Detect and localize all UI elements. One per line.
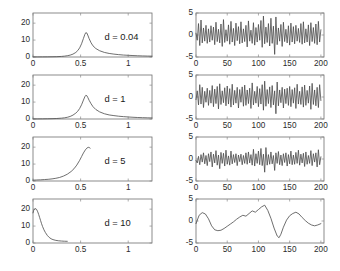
chart-panel-right-signal-2: 050100150200-505: [170, 66, 334, 135]
y-tick-label: 5: [188, 8, 193, 17]
y-tick-label: 0: [25, 176, 30, 185]
y-tick-label: 0: [188, 30, 193, 39]
y-tick-label: 5: [188, 132, 193, 141]
chart-panel-left-d-5: 00.5101020d = 5: [7, 128, 162, 197]
figure-panel-grid: 00.5101020d = 0.0400.5101020d = 100.5101…: [0, 0, 340, 271]
y-tick-label: 10: [21, 159, 31, 168]
y-tick-label: 0: [188, 154, 193, 163]
y-tick-label: 20: [21, 18, 31, 27]
x-tick-label: 50: [223, 245, 233, 254]
panel-annotation: d = 10: [104, 217, 130, 228]
plot-frame: [33, 199, 152, 243]
y-tick-label: 0: [25, 114, 30, 123]
data-curve: [196, 205, 321, 238]
x-tick-label: 0: [194, 245, 199, 254]
plot-frame: [33, 75, 152, 119]
data-curve: [33, 209, 67, 242]
y-tick-label: 10: [21, 221, 31, 230]
y-tick-label: 10: [21, 97, 31, 106]
chart-panel-left-d-0-04: 00.5101020d = 0.04: [7, 4, 162, 73]
chart-panel-left-d-10: 00.5101020d = 10: [7, 190, 162, 259]
x-tick-label: 150: [283, 245, 297, 254]
y-tick-label: -5: [186, 114, 194, 123]
chart-panel-right-signal-3: 050100150200-505: [170, 128, 334, 197]
chart-panel-left-d-1: 00.5101020d = 1: [7, 66, 162, 135]
y-tick-label: 5: [188, 194, 193, 203]
x-tick-label: 100: [252, 245, 266, 254]
plot-frame: [33, 137, 152, 181]
chart-panel-right-signal-4: 050100150200-505: [170, 190, 334, 259]
y-tick-label: 20: [21, 80, 31, 89]
data-curve: [196, 16, 321, 54]
y-tick-label: 20: [21, 142, 31, 151]
x-tick-label: 1: [126, 245, 131, 254]
data-curve: [196, 81, 321, 114]
data-curve: [33, 147, 90, 180]
y-tick-label: -5: [186, 176, 194, 185]
plot-frame: [196, 199, 324, 243]
x-tick-label: 0.5: [75, 245, 87, 254]
data-curve: [33, 95, 152, 119]
chart-panel-right-signal-1: 050100150200-505: [170, 4, 334, 73]
y-tick-label: 20: [21, 204, 31, 213]
y-tick-label: -5: [186, 238, 194, 247]
y-tick-label: -5: [186, 52, 194, 61]
y-tick-label: 0: [25, 238, 30, 247]
panel-annotation: d = 0.04: [104, 31, 138, 42]
panel-annotation: d = 1: [104, 93, 125, 104]
x-tick-label: 0: [31, 245, 36, 254]
y-tick-label: 0: [188, 216, 193, 225]
data-curve: [196, 148, 321, 173]
y-tick-label: 5: [188, 70, 193, 79]
x-tick-label: 200: [314, 245, 328, 254]
y-tick-label: 0: [188, 92, 193, 101]
panel-annotation: d = 5: [104, 155, 125, 166]
y-tick-label: 10: [21, 35, 31, 44]
y-tick-label: 0: [25, 52, 30, 61]
